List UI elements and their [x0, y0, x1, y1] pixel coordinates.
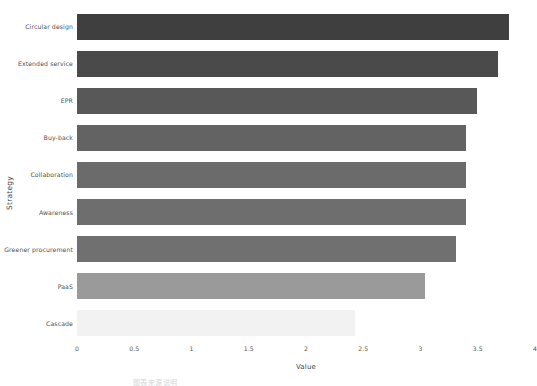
bottom-watermark: 图表来源说明 — [133, 379, 253, 386]
y-tick-row: Cascade — [0, 305, 77, 342]
bar-row — [77, 305, 535, 342]
y-axis-tick-labels: Circular design Extended service EPR Buy… — [0, 8, 77, 342]
bar-row — [77, 119, 535, 156]
y-tick-label: PaaS — [58, 283, 73, 290]
y-tick-label: Collaboration — [30, 171, 73, 178]
bar-row — [77, 268, 535, 305]
bar — [77, 310, 355, 336]
bar — [77, 51, 498, 77]
bar-row — [77, 45, 535, 82]
bar — [77, 162, 466, 188]
bar-row — [77, 8, 535, 45]
x-tick-label: 3 — [419, 345, 423, 352]
y-tick-label: Buy-back — [44, 134, 73, 141]
y-tick-row: Greener procurement — [0, 231, 77, 268]
x-tick-label: 3.5 — [473, 345, 483, 352]
x-tick-label: 2.5 — [358, 345, 368, 352]
y-tick-row: Collaboration — [0, 156, 77, 193]
x-tick-label: 4 — [533, 345, 537, 352]
y-tick-row: Awareness — [0, 194, 77, 231]
bar — [77, 199, 466, 225]
y-tick-row: Circular design — [0, 8, 77, 45]
bar — [77, 88, 477, 114]
y-tick-label: EPR — [61, 97, 73, 104]
y-tick-row: Extended service — [0, 45, 77, 82]
y-tick-row: Buy-back — [0, 119, 77, 156]
y-tick-label: Cascade — [46, 320, 73, 327]
x-axis-title: Value — [77, 363, 535, 371]
y-tick-row: PaaS — [0, 268, 77, 305]
y-tick-label: Circular design — [25, 23, 73, 30]
y-tick-label: Greener procurement — [4, 246, 73, 253]
x-tick-label: 1.5 — [244, 345, 254, 352]
plot-area — [77, 8, 535, 342]
y-tick-label: Awareness — [39, 209, 73, 216]
x-tick-label: 2 — [304, 345, 308, 352]
y-tick-row: EPR — [0, 82, 77, 119]
bar — [77, 236, 456, 262]
bar-row — [77, 194, 535, 231]
x-tick-label: 0.5 — [129, 345, 139, 352]
bar — [77, 273, 425, 299]
bar — [77, 125, 466, 151]
x-axis-tick-labels: 00.511.522.533.54 — [77, 345, 535, 359]
bar — [77, 14, 509, 40]
bar-row — [77, 82, 535, 119]
x-tick-label: 0 — [75, 345, 79, 352]
x-tick-label: 1 — [190, 345, 194, 352]
bars-layer — [77, 8, 535, 342]
y-tick-label: Extended service — [18, 60, 73, 67]
bar-row — [77, 231, 535, 268]
bar-row — [77, 156, 535, 193]
